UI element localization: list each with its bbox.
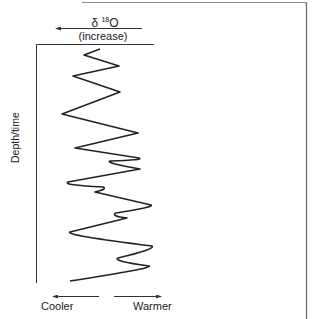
cooler-label: Cooler	[41, 301, 73, 312]
warmer-label: Warmer	[133, 301, 172, 312]
y-axis-label: Depth/time	[10, 112, 21, 163]
delta-symbol: δ	[91, 16, 98, 30]
delta18o-title: δ 18O	[85, 16, 125, 29]
diagram-svg	[0, 0, 312, 319]
isotope-curve	[62, 49, 152, 281]
element-symbol: O	[109, 16, 118, 30]
oxygen-isotope-diagram: δ 18O (increase) Depth/time Cooler Warme…	[0, 0, 312, 319]
increase-note: (increase)	[73, 31, 133, 42]
